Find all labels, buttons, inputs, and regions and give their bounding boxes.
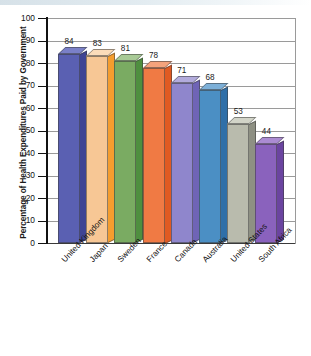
y-tick-40 <box>38 153 47 154</box>
bar-2[interactable]: 81 <box>114 61 136 243</box>
bar-value-label: 78 <box>143 51 165 60</box>
y-tick-20 <box>38 198 47 199</box>
y-tick-70 <box>38 86 47 87</box>
y-tick-label-50: 50 <box>11 126 35 134</box>
plot-right-border <box>295 18 296 244</box>
x-axis-category-labels: United KingdomJapanSwedenFranceCanadaAus… <box>0 258 311 356</box>
bar-value-label: 53 <box>227 107 249 116</box>
bar-value-label: 71 <box>171 66 193 75</box>
y-tick-60 <box>38 108 47 109</box>
bar-front-face <box>199 90 221 243</box>
y-tick-30 <box>38 176 47 177</box>
bar-3[interactable]: 78 <box>143 68 165 244</box>
y-tick-label-30: 30 <box>11 171 35 179</box>
bar-chart: Percentage of Health Expenditures Paid b… <box>0 0 311 356</box>
bar-side-face <box>277 140 284 243</box>
bar-value-label: 68 <box>199 73 221 82</box>
bar-value-label: 81 <box>114 44 136 53</box>
y-tick-label-100: 100 <box>11 14 35 22</box>
y-tick-0 <box>38 243 47 244</box>
bar-front-face <box>114 61 136 243</box>
y-tick-label-20: 20 <box>11 194 35 202</box>
bar-value-label: 44 <box>255 127 277 136</box>
y-tick-label-70: 70 <box>11 81 35 89</box>
y-tick-50 <box>38 131 47 132</box>
gridline-100 <box>48 18 296 19</box>
y-tick-label-0: 0 <box>11 239 35 247</box>
bar-front-face <box>171 83 193 243</box>
y-tick-90 <box>38 41 47 42</box>
bar-front-face <box>227 124 249 243</box>
y-tick-label-80: 80 <box>11 59 35 67</box>
y-tick-10 <box>38 221 47 222</box>
bar-0[interactable]: 84 <box>58 54 80 243</box>
y-tick-100 <box>38 18 47 19</box>
bar-front-face <box>86 56 108 243</box>
bar-4[interactable]: 71 <box>171 83 193 243</box>
bar-6[interactable]: 53 <box>227 124 249 243</box>
y-tick-label-10: 10 <box>11 216 35 224</box>
plot-area: 8483817871685344 <box>48 18 296 243</box>
bar-1[interactable]: 83 <box>86 56 108 243</box>
bar-front-face <box>143 68 165 244</box>
bar-front-face <box>58 54 80 243</box>
x-label-1: Japan <box>88 242 110 264</box>
bar-value-label: 84 <box>58 37 80 46</box>
bar-value-label: 83 <box>86 39 108 48</box>
bar-5[interactable]: 68 <box>199 90 221 243</box>
y-tick-label-90: 90 <box>11 36 35 44</box>
y-tick-80 <box>38 63 47 64</box>
gridline-90 <box>48 41 296 42</box>
y-tick-label-40: 40 <box>11 149 35 157</box>
y-tick-label-60: 60 <box>11 104 35 112</box>
